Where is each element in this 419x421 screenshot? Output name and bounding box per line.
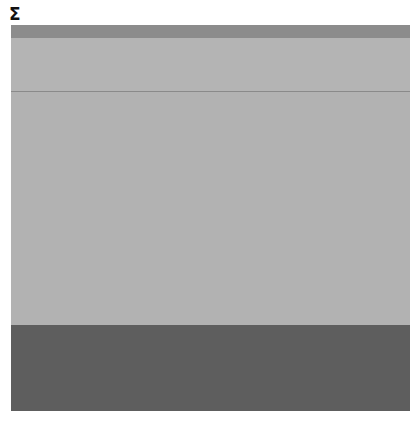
middle-section bbox=[11, 92, 410, 325]
sigma-icon: Σ bbox=[9, 4, 21, 24]
top-bar bbox=[11, 25, 410, 38]
upper-section bbox=[11, 38, 410, 91]
bottom-section bbox=[11, 325, 410, 411]
gray-panel bbox=[11, 25, 410, 411]
